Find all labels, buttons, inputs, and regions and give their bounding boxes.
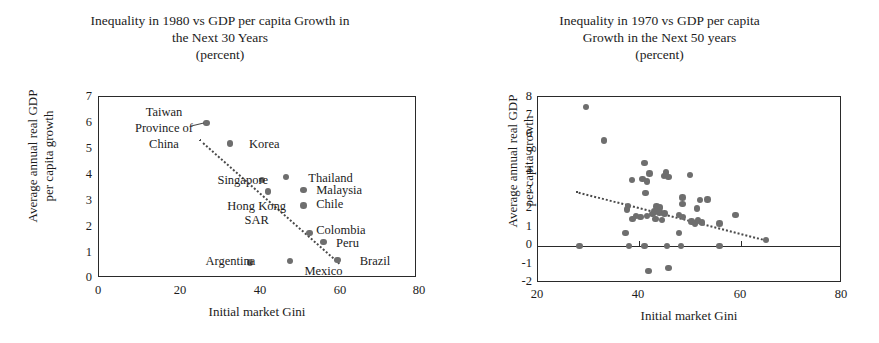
y-tick-label: -1: [502, 257, 532, 269]
data-point: [694, 205, 701, 212]
chart-title-left: Inequality in 1980 vs GDP per capita Gro…: [0, 12, 440, 63]
y-tick-label: 2: [66, 220, 92, 232]
y-tick-label: 7: [506, 108, 532, 120]
y-tick-label: -2: [502, 275, 532, 287]
figure-container: Inequality in 1980 vs GDP per capita Gro…: [0, 0, 879, 343]
x-tick-label: 80: [402, 284, 436, 296]
point-label-peru: Peru: [336, 236, 359, 250]
data-point: [227, 140, 234, 147]
data-point: [661, 210, 668, 217]
y-tick-label: 6: [506, 127, 532, 139]
y-axis-title-line-1: Average annual real GDP: [25, 71, 41, 241]
x-tick-label: 40: [621, 288, 655, 300]
title-line-2: the Next 30 Years: [0, 29, 440, 46]
y-tick-label: 4: [506, 164, 532, 176]
data-point: [652, 216, 659, 223]
data-point: [697, 197, 704, 204]
data-point: [645, 268, 652, 275]
data-point: [679, 201, 686, 208]
plot-area-right: [537, 96, 841, 282]
y-tick-label: 1: [506, 220, 532, 232]
data-point: [626, 243, 633, 250]
y-tick-label: 3: [506, 183, 532, 195]
x-tick-label: 0: [81, 284, 115, 296]
data-point: [629, 216, 636, 223]
data-point: [678, 243, 685, 250]
data-point: [716, 243, 723, 250]
point-label-singapore: Singapore: [217, 173, 268, 187]
y-tick-label: 0: [506, 238, 532, 250]
x-tick-label: 20: [520, 288, 554, 300]
y-tick-label: 2: [506, 201, 532, 213]
data-point: [629, 177, 636, 184]
data-point: [622, 230, 629, 237]
zero-reference-line: [538, 246, 840, 247]
y-tick-label: 1: [66, 246, 92, 258]
x-axis-title-right: Initial market Gini: [537, 308, 841, 324]
data-point: [601, 137, 608, 144]
point-label-hong-kong-sar: Hong KongSAR: [227, 199, 286, 227]
data-point: [644, 178, 651, 185]
y-axis-title-line-2: per capita growth: [41, 71, 57, 241]
data-point: [320, 239, 327, 246]
title-line-3: (percent): [440, 46, 879, 63]
data-point: [646, 170, 653, 177]
x-axis-inner-tick: [639, 241, 640, 246]
data-point: [704, 196, 711, 203]
y-tick-label: 7: [66, 90, 92, 102]
data-point: [334, 257, 341, 264]
point-label-korea: Korea: [249, 137, 280, 151]
chart-panel-left: Inequality in 1980 vs GDP per capita Gro…: [0, 0, 440, 343]
data-point: [300, 187, 307, 194]
data-point: [665, 174, 672, 181]
point-label-brazil: Brazil: [360, 254, 391, 268]
point-label-mexico: Mexico: [304, 264, 342, 278]
chart-panel-right: Inequality in 1970 vs GDP per capita Gro…: [440, 0, 879, 343]
x-tick-label: 20: [163, 284, 197, 296]
data-point: [732, 212, 739, 219]
data-point: [763, 237, 770, 244]
point-label-malaysia: Malaysia: [316, 183, 362, 197]
data-point: [583, 104, 590, 111]
chart-title-right: Inequality in 1970 vs GDP per capita Gro…: [440, 12, 879, 63]
data-point: [576, 243, 583, 250]
data-point: [283, 174, 290, 181]
data-point: [306, 230, 313, 237]
data-point: [716, 220, 723, 227]
data-point: [287, 258, 294, 265]
title-line-3: (percent): [0, 46, 440, 63]
x-tick-label: 80: [824, 288, 858, 300]
data-point: [676, 230, 683, 237]
y-axis-title-left: Average annual real GDP per capita growt…: [25, 71, 57, 241]
data-point: [659, 217, 666, 224]
x-axis-inner-tick: [741, 241, 742, 246]
point-label-chile: Chile: [316, 197, 343, 211]
y-tick-label: 5: [506, 145, 532, 157]
data-point: [679, 194, 686, 201]
x-axis-title-left: Initial market Gini: [98, 304, 416, 320]
data-point: [665, 265, 672, 272]
point-label-taiwan-block: TaiwanProvince ofChina: [112, 104, 216, 152]
x-tick-label: 60: [723, 288, 757, 300]
y-tick-label: 8: [506, 90, 532, 102]
y-tick-label: 0: [66, 271, 92, 283]
data-point: [644, 213, 651, 220]
data-point: [624, 206, 631, 213]
data-point: [300, 202, 307, 209]
x-tick-label: 60: [323, 284, 357, 296]
data-point: [642, 190, 649, 197]
point-label-argentina: Argentina: [206, 254, 256, 268]
data-point: [641, 243, 648, 250]
data-point: [265, 188, 272, 195]
data-point: [664, 243, 671, 250]
title-line-2: Growth in the Next 50 years: [440, 29, 879, 46]
y-tick-label: 3: [66, 194, 92, 206]
x-tick-label: 40: [243, 284, 277, 296]
data-point: [641, 160, 648, 167]
y-tick-label: 5: [66, 142, 92, 154]
title-line-1: Inequality in 1970 vs GDP per capita: [440, 12, 879, 29]
y-tick-label: 6: [66, 116, 92, 128]
title-line-1: Inequality in 1980 vs GDP per capita Gro…: [0, 12, 440, 29]
data-point: [687, 172, 694, 179]
y-tick-label: 4: [66, 168, 92, 180]
